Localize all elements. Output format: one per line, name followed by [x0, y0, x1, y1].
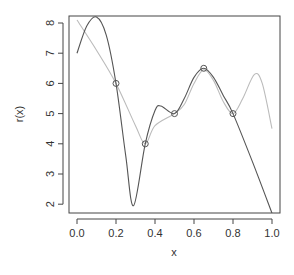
x-tick-label: 0.0 [69, 227, 84, 239]
x-tick-label: 0.2 [108, 227, 123, 239]
chart: 0.00.20.40.60.81.0 2345678 x r(x) [0, 0, 294, 275]
x-tick-label: 1.0 [264, 227, 279, 239]
y-tick-label: 8 [44, 20, 56, 26]
true-function-line [77, 20, 272, 144]
x-axis: 0.00.20.40.60.81.0 [69, 219, 279, 239]
plot-frame [69, 16, 280, 213]
x-tick-label: 0.8 [225, 227, 240, 239]
x-tick-label: 0.4 [147, 227, 162, 239]
interpolant-line [77, 17, 272, 214]
y-axis: 2345678 [44, 20, 63, 207]
y-tick-label: 5 [44, 111, 56, 117]
series-layer [77, 17, 272, 214]
y-tick-label: 2 [44, 201, 56, 207]
y-tick-label: 4 [44, 141, 56, 147]
y-tick-label: 3 [44, 171, 56, 177]
y-tick-label: 7 [44, 50, 56, 56]
y-axis-title: r(x) [13, 106, 25, 123]
x-tick-label: 0.6 [186, 227, 201, 239]
y-tick-label: 6 [44, 80, 56, 86]
x-axis-title: x [171, 246, 177, 258]
